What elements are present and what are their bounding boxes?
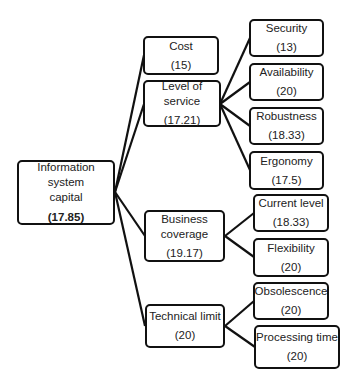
node-label: Current level	[258, 196, 323, 211]
node-availability: Availability (20)	[249, 63, 324, 101]
node-obsolescence: Obsolescence (20)	[253, 282, 329, 320]
node-value: (20)	[281, 260, 301, 275]
node-label: Ergonomy	[260, 154, 312, 169]
node-label: Business	[161, 212, 208, 227]
node-value: (15)	[171, 58, 191, 73]
node-label: Processing time	[256, 330, 338, 345]
node-label: Security	[266, 21, 308, 36]
node-cost: Cost (15)	[143, 36, 219, 75]
node-label: Level of service	[145, 79, 219, 109]
node-processing-time: Processing time (20)	[254, 325, 340, 369]
node-robustness: Robustness (18.33)	[249, 107, 324, 145]
node-value: (20)	[281, 303, 301, 318]
node-level-of-service: Level of service (17.21)	[143, 80, 221, 127]
node-label: capital	[49, 190, 82, 205]
node-ergonomy: Ergonomy (17.5)	[249, 151, 324, 190]
node-value: (18.33)	[273, 215, 309, 230]
node-flexibility: Flexibility (20)	[253, 238, 329, 277]
node-value: (20)	[175, 328, 195, 343]
node-label: Cost	[169, 39, 193, 54]
node-value: (17.85)	[48, 210, 84, 225]
node-value: (19.17)	[166, 246, 202, 261]
node-value: (13)	[276, 40, 296, 55]
node-value: (17.21)	[164, 113, 200, 128]
node-security: Security (13)	[249, 19, 324, 57]
node-label: Availability	[259, 65, 313, 80]
node-information-system-capital: Information system capital (17.85)	[17, 160, 115, 225]
node-value: (20)	[287, 349, 307, 364]
node-business-coverage: Business coverage (19.17)	[144, 210, 225, 262]
node-label: Information system	[19, 160, 113, 190]
node-label: Flexibility	[267, 241, 314, 256]
node-label: Robustness	[256, 109, 317, 124]
node-label: coverage	[161, 227, 208, 242]
node-label: Technical limit	[149, 309, 221, 324]
node-value: (17.5)	[271, 173, 301, 188]
node-value: (18.33)	[268, 128, 304, 143]
node-technical-limit: Technical limit (20)	[145, 304, 225, 348]
node-label: Obsolescence	[255, 284, 328, 299]
node-value: (20)	[276, 84, 296, 99]
node-current-level: Current level (18.33)	[253, 194, 329, 232]
